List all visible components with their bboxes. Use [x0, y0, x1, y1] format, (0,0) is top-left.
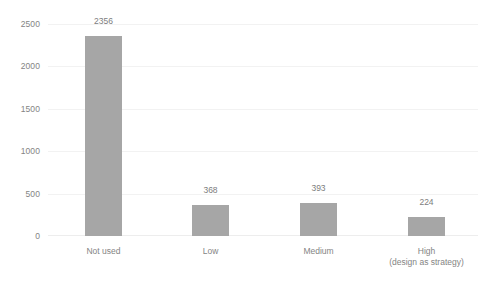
- y-tick-label: 1000: [6, 147, 40, 156]
- bar-value-not-used: 2356: [94, 17, 113, 26]
- x-category-label-text: Not used: [86, 246, 120, 256]
- x-category-label-text: Low: [203, 246, 219, 256]
- x-category-label-text: Medium: [303, 246, 333, 256]
- x-category-label-high: High (design as strategy): [389, 246, 464, 268]
- bar-chart: 0 500 1000 1500 2000 2500 2356 368 393 2…: [0, 0, 495, 283]
- bar-medium: [300, 203, 337, 236]
- x-category-label-medium: Medium: [303, 246, 333, 257]
- y-tick-label: 2000: [6, 62, 40, 71]
- bar-value-medium: 393: [311, 184, 325, 193]
- y-tick-label: 2500: [6, 20, 40, 29]
- x-category-label-not-used: Not used: [86, 246, 120, 257]
- bar-not-used: [85, 36, 122, 236]
- bar-low: [192, 205, 229, 236]
- y-tick-label: 500: [6, 189, 40, 198]
- y-tick-label: 1500: [6, 105, 40, 114]
- x-category-label-low: Low: [203, 246, 219, 257]
- plot-area: [48, 24, 478, 236]
- y-tick-label: 0: [6, 232, 40, 241]
- bar-value-high: 224: [419, 198, 433, 207]
- x-category-sublabel-text: (design as strategy): [389, 257, 464, 268]
- x-category-label-text: High: [418, 246, 435, 256]
- bar-value-low: 368: [203, 186, 217, 195]
- bar-high: [408, 217, 445, 236]
